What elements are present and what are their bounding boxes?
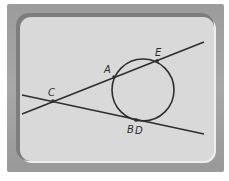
circle: [112, 59, 174, 121]
point-dot: [134, 118, 138, 122]
point-dot: [112, 75, 116, 79]
point-label-c: C: [48, 87, 55, 98]
point-label-d: D: [135, 125, 143, 136]
geometry-diagram: CAEBD: [0, 0, 229, 181]
point-dot: [51, 99, 55, 103]
point-dot: [155, 59, 159, 63]
tangent-line-cd: [22, 95, 204, 134]
point-label-a: A: [103, 64, 111, 75]
point-label-e: E: [155, 47, 162, 58]
point-label-b: B: [127, 124, 134, 135]
